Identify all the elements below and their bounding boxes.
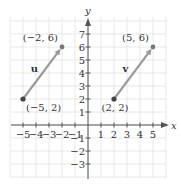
vector-shaft	[23, 50, 60, 99]
x-axis-arrowhead-icon	[161, 122, 169, 128]
coordinate-plane: x y −5−4−3−2−1123457654321−1−2−3 (−5, 2)…	[0, 0, 181, 188]
start-point-label: (−5, 2)	[26, 102, 61, 113]
y-tick-label: −2	[70, 146, 85, 157]
vector-name-label: v	[122, 63, 130, 74]
vector-v: (2, 2)(5, 6)v	[102, 32, 156, 113]
start-point-label: (2, 2)	[102, 102, 129, 113]
end-point	[151, 45, 156, 50]
x-tick-label: 2	[111, 129, 117, 140]
end-point-label: (−2, 6)	[23, 32, 58, 43]
start-point	[111, 96, 116, 101]
end-point	[60, 45, 65, 50]
x-tick-label: 5	[150, 129, 156, 140]
y-tick-label: −3	[70, 159, 85, 170]
y-axis-label: y	[84, 5, 91, 16]
y-tick-label: 3	[79, 81, 85, 92]
y-tick-label: 4	[79, 68, 85, 79]
vector-shaft	[114, 50, 151, 99]
x-tick-label: 4	[137, 129, 143, 140]
vector-u: (−5, 2)(−2, 6)u	[20, 32, 64, 113]
start-point	[20, 96, 25, 101]
x-axis-label: x	[171, 120, 177, 131]
y-tick-label: 6	[79, 42, 85, 53]
y-tick-label: −1	[70, 133, 85, 144]
x-tick-label: 3	[124, 129, 130, 140]
y-tick-label: 2	[79, 94, 85, 105]
y-tick-label: 1	[79, 107, 85, 118]
y-axis-arrowhead-icon	[85, 18, 91, 26]
y-tick-label: 5	[79, 55, 85, 66]
x-tick-label: 1	[98, 129, 104, 140]
plot-svg: x y −5−4−3−2−1123457654321−1−2−3 (−5, 2)…	[0, 0, 181, 188]
end-point-label: (5, 6)	[122, 32, 149, 43]
vector-name-label: u	[31, 63, 38, 74]
y-tick-label: 7	[79, 29, 85, 40]
